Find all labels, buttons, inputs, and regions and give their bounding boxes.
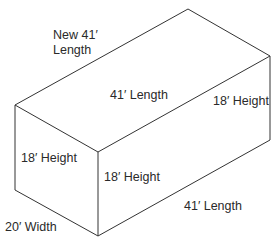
label-width: 20′ Width	[5, 220, 57, 235]
box-diagram: New 41′ Length 41′ Length 18′ Height 18′…	[0, 0, 275, 243]
label-new-length-line2: Length	[53, 43, 98, 58]
label-left-height: 18′ Height	[21, 151, 77, 166]
edge-top-width	[15, 105, 98, 152]
label-right-height: 18′ Height	[213, 94, 269, 109]
edge-bottom-length	[98, 140, 270, 236]
label-new-length: New 41′ Length	[53, 28, 98, 58]
label-bottom-length: 41′ Length	[184, 199, 242, 214]
label-new-length-line1: New 41′	[53, 28, 98, 43]
edge-top-back-right	[188, 9, 270, 56]
label-front-height: 18′ Height	[104, 170, 160, 185]
label-top-length: 41′ Length	[110, 88, 168, 103]
